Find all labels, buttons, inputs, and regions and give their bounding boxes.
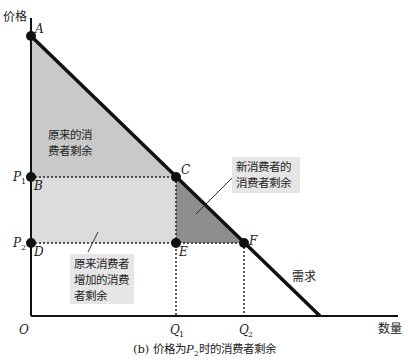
tick-p2-sub: 2 (21, 243, 26, 252)
y-axis-label: 价格 (3, 9, 27, 24)
caption: (b) 价格为P2时的消费者剩余 (133, 342, 277, 358)
label-added-line-2: 增加的消费 (74, 273, 129, 287)
point-c (171, 172, 181, 182)
label-original-line-1: 原来的消 (48, 128, 92, 142)
tick-p1: P 1 (12, 170, 26, 186)
label-added-line-1: 原来消费者 (74, 257, 129, 271)
tick-q1: Q 1 (170, 323, 184, 339)
label-new-consumers-surplus: 新消费者的 消费者剩余 (232, 157, 300, 193)
origin-label: O (19, 323, 29, 337)
consumer-surplus-diagram: A B C D E F 价格 数量 O P 1 P 2 Q 1 Q 2 原来的消… (0, 0, 408, 360)
label-added-line-3: 者剩余 (74, 289, 108, 303)
label-c: C (181, 163, 190, 177)
tick-q1-sub: 1 (179, 330, 184, 339)
tick-p2: P 2 (12, 236, 26, 252)
region-added-surplus-original-consumers (31, 177, 176, 243)
x-axis-label: 数量 (378, 321, 402, 336)
label-original-line-2: 费者剩余 (48, 144, 93, 158)
point-f (239, 238, 249, 248)
caption-var: P (185, 342, 194, 356)
tick-q2-sub: 2 (248, 330, 253, 339)
demand-label: 需求 (292, 270, 316, 284)
caption-text: (b) 价格为P2时的消费者剩余 (133, 342, 277, 358)
label-new-line-2: 消费者剩余 (236, 176, 292, 190)
tick-q2: Q 2 (239, 323, 253, 339)
label-added-surplus: 原来消费者 增加的消费 者剩余 (70, 254, 134, 304)
tick-p1-sub: 1 (21, 177, 26, 186)
label-new-line-1: 新消费者的 (236, 160, 291, 174)
leader-new-consumers (196, 178, 232, 214)
label-d: D (33, 245, 44, 259)
caption-suffix: 时的消费者剩余 (199, 342, 277, 356)
label-a: A (34, 22, 44, 36)
label-b: B (33, 179, 43, 193)
label-f: F (248, 234, 258, 248)
caption-prefix: (b) 价格为 (133, 342, 186, 356)
label-e: E (178, 245, 188, 259)
